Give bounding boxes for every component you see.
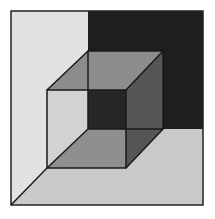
cube-diagram <box>0 0 215 219</box>
cube-front-window <box>88 90 126 129</box>
